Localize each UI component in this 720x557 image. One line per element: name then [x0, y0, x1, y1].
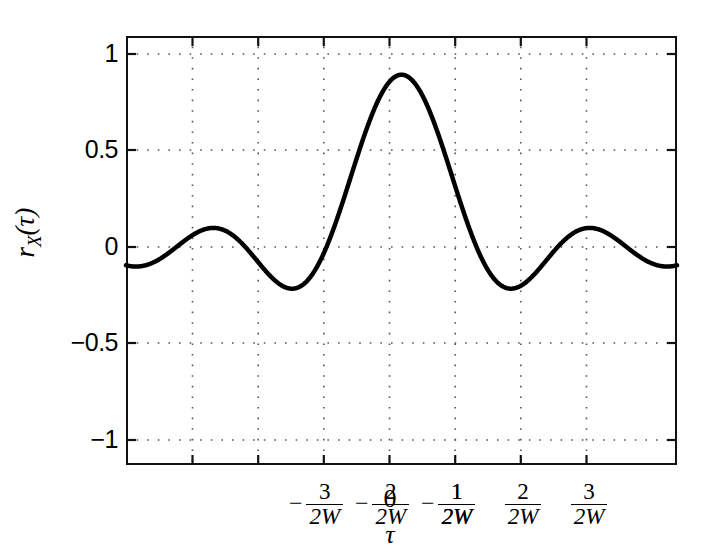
x-tick-neg3-sign: − [289, 490, 307, 517]
x-tick-label-3: 32W [544, 480, 634, 529]
y-axis-title-subscript: X [24, 235, 45, 247]
y-axis-title-base: r [10, 247, 40, 258]
y-axis-title: rX(τ) [10, 153, 45, 313]
x-tick-2-denominator: 2W [505, 504, 542, 529]
y-tick-label-neg1: −1 [8, 427, 118, 452]
x-tick-1-numerator: 1 [439, 480, 476, 504]
y-axis-title-argument: (τ) [10, 208, 40, 236]
y-tick-label-1: 1 [8, 41, 118, 66]
y-tick-label-neg0p5: −0.5 [8, 330, 118, 355]
tick-marks [126, 36, 677, 465]
x-tick-2-numerator: 2 [505, 480, 542, 504]
x-tick-2-fraction: 22W [505, 480, 542, 529]
plot-area [126, 36, 677, 465]
x-tick-1-denominator: 2W [439, 504, 476, 529]
x-tick-3-denominator: 2W [571, 504, 608, 529]
figure-canvas: 1 0.5 0 −0.5 −1 rX(τ) [0, 0, 720, 557]
sinc-curve [126, 75, 677, 289]
x-tick-3-numerator: 3 [571, 480, 608, 504]
x-axis-title: τ [350, 520, 430, 550]
x-tick-1-fraction: 12W [439, 480, 476, 529]
x-tick-0-value: 0 [384, 484, 397, 513]
x-tick-3-fraction: 32W [571, 480, 608, 529]
grid-lines [126, 36, 677, 465]
